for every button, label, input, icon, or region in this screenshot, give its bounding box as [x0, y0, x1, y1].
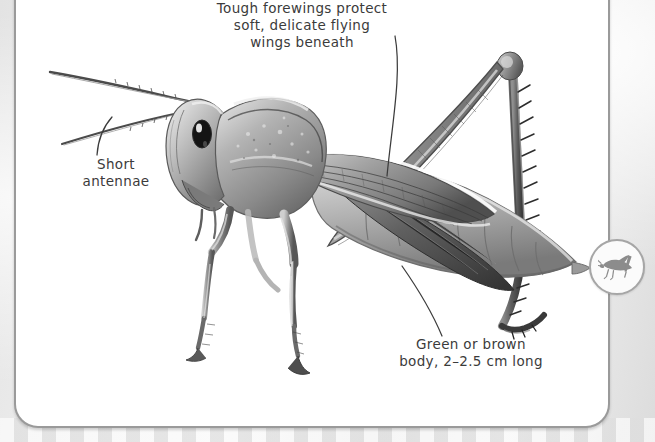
- callout-antennae: Short antennae: [68, 156, 164, 190]
- leader-body: [402, 266, 442, 336]
- grasshopper-icon: [598, 252, 636, 282]
- content-panel-inner: Tough forewings protect soft, delicate f…: [16, 0, 608, 426]
- callout-forewings: Tough forewings protect soft, delicate f…: [198, 0, 406, 51]
- grasshopper-badge[interactable]: [589, 239, 645, 295]
- leader-antennae: [97, 117, 112, 155]
- head: [166, 99, 224, 240]
- callout-body: Green or brown body, 2–2.5 cm long: [371, 336, 571, 370]
- front-leg-far: [248, 212, 278, 290]
- content-panel: Tough forewings protect soft, delicate f…: [14, 0, 610, 428]
- leader-forewings: [387, 36, 397, 176]
- middle-leg: [281, 214, 310, 374]
- front-leg: [186, 210, 230, 361]
- thorax: [212, 98, 326, 218]
